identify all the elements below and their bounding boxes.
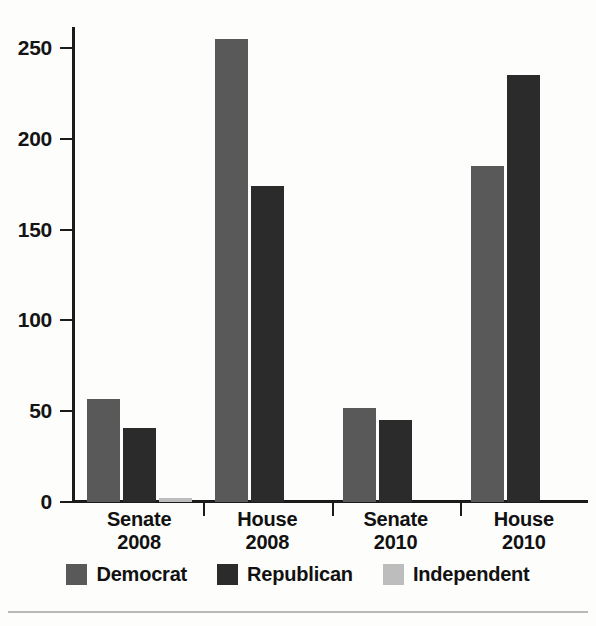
category-label-year: 2008 (75, 531, 203, 554)
legend-item-democrat[interactable]: Democrat (66, 563, 187, 586)
category-label-year: 2010 (460, 531, 588, 554)
legend-item-republican[interactable]: Republican (217, 563, 353, 586)
legend-item-independent[interactable]: Independent (383, 563, 530, 586)
x-axis-category-label: Senate2010 (332, 508, 460, 554)
chart-legend: DemocratRepublicanIndependent (0, 558, 596, 590)
bar-republican-senate-2008 (123, 428, 156, 502)
legend-label: Democrat (96, 563, 187, 586)
legend-swatch-icon (217, 564, 238, 585)
category-label-year: 2010 (332, 531, 460, 554)
legend-swatch-icon (383, 564, 404, 585)
bar-democrat-senate-2010 (343, 408, 376, 502)
legend-label: Republican (247, 563, 353, 586)
legend-label: Independent (413, 563, 530, 586)
x-axis-category-label: House2008 (203, 508, 331, 554)
bar-democrat-senate-2008 (87, 399, 120, 503)
bars-layer (0, 0, 596, 502)
bar-republican-house-2010 (507, 75, 540, 502)
bar-chart-figure: 250200150100500 Senate2008House2008Senat… (0, 0, 596, 626)
bar-republican-senate-2010 (379, 420, 412, 502)
x-axis-category-label: House2010 (460, 508, 588, 554)
bar-democrat-house-2008 (215, 39, 248, 502)
bottom-divider (8, 611, 588, 613)
plot-area: 250200150100500 Senate2008House2008Senat… (0, 0, 596, 520)
x-axis-category-label: Senate2008 (75, 508, 203, 554)
category-label-chamber: House (460, 508, 588, 531)
category-label-chamber: Senate (75, 508, 203, 531)
bar-republican-house-2008 (251, 186, 284, 502)
legend-swatch-icon (66, 564, 87, 585)
category-label-year: 2008 (203, 531, 331, 554)
bar-democrat-house-2010 (471, 166, 504, 502)
bar-independent-senate-2008 (159, 498, 192, 502)
category-label-chamber: House (203, 508, 331, 531)
category-label-chamber: Senate (332, 508, 460, 531)
